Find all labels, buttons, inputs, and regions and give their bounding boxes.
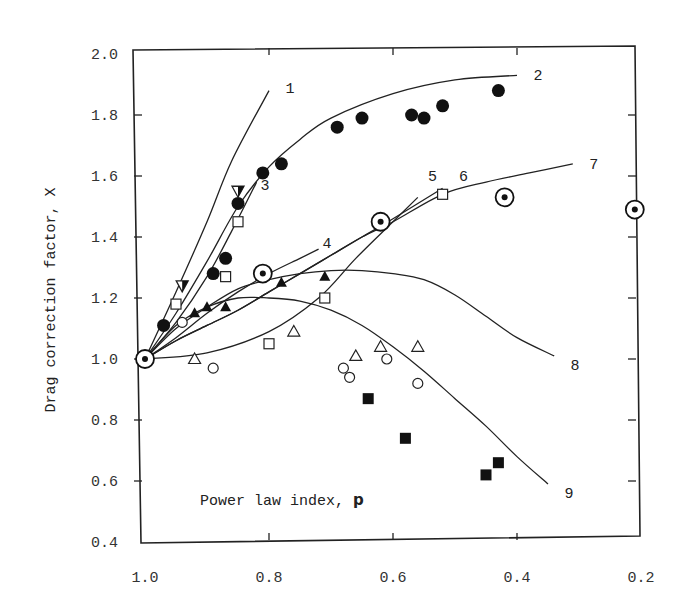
y-tick-label: 1.4 <box>91 230 118 247</box>
y-tick-label: 0.4 <box>91 535 118 552</box>
filled-square-marker <box>481 469 492 480</box>
y-tick-label: 1.2 <box>91 291 118 308</box>
curve-2 <box>145 75 517 359</box>
curve-label-3: 3 <box>261 178 270 195</box>
filled-circle-marker <box>232 197 245 210</box>
open-circle-marker <box>345 372 355 382</box>
open-circle-marker <box>177 317 187 327</box>
x-axis-ticks <box>269 48 517 540</box>
filled-triangle-marker <box>319 271 330 281</box>
open-square-marker <box>320 293 330 303</box>
filled-circle-marker <box>356 112 369 125</box>
curve-label-2: 2 <box>533 68 542 85</box>
open-triangle-marker <box>375 341 387 352</box>
y-axis-title: Drag correction factor, X <box>43 187 60 412</box>
curve-labels: 123456789 <box>261 68 599 503</box>
filled-circle-marker <box>275 157 288 170</box>
curve-8 <box>145 270 554 359</box>
y-axis-tick-labels: 2.01.81.61.41.21.00.80.60.4 <box>91 47 118 552</box>
plot-frame <box>133 46 640 543</box>
model-curves <box>145 75 573 484</box>
open-square-marker <box>233 217 243 227</box>
curve-label-9: 9 <box>564 486 573 503</box>
curve-9 <box>145 297 548 484</box>
x-axis-tick-labels: 1.00.80.60.40.2 <box>131 570 654 587</box>
open-circle-marker <box>338 363 348 373</box>
y-tick-label: 1.0 <box>91 352 118 369</box>
open-triangle-marker <box>350 350 362 361</box>
open-square-marker <box>221 272 231 282</box>
curve-label-1: 1 <box>285 81 294 98</box>
curve-label-7: 7 <box>589 157 598 174</box>
filled-square-marker <box>400 433 411 444</box>
y-tick-label: 0.8 <box>91 413 118 430</box>
filled-square-marker <box>493 457 504 468</box>
curve-1 <box>145 91 269 359</box>
curve-label-5: 5 <box>428 169 437 186</box>
x-axis-title: Power law index, p <box>200 491 364 510</box>
x-axis-title-var: p <box>353 491 364 509</box>
y-tick-label: 2.0 <box>91 47 118 64</box>
curve-label-8: 8 <box>571 358 580 375</box>
x-tick-label: 0.4 <box>503 570 530 587</box>
filled-circle-marker <box>331 121 344 134</box>
x-tick-label: 1.0 <box>131 570 158 587</box>
filled-circle-marker <box>418 112 431 125</box>
filled-circle-marker <box>492 84 505 97</box>
open-square-marker <box>264 339 274 349</box>
x-tick-label: 0.2 <box>627 570 654 587</box>
filled-circle-marker <box>219 252 232 265</box>
filled-square-marker <box>363 393 374 404</box>
y-tick-label: 1.6 <box>91 169 118 186</box>
open-circle-marker <box>413 378 423 388</box>
y-axis-ticks <box>134 115 636 481</box>
open-circle-marker <box>208 363 218 373</box>
open-square-marker <box>438 189 448 199</box>
data-markers <box>136 84 644 480</box>
curve-label-6: 6 <box>459 169 468 186</box>
y-tick-label: 1.8 <box>91 108 118 125</box>
open-triangle-marker <box>288 326 300 337</box>
y-tick-label: 0.6 <box>91 474 118 491</box>
open-square-marker <box>171 299 181 309</box>
x-axis-title-text: Power law index, <box>200 493 353 510</box>
x-tick-label: 0.8 <box>255 570 282 587</box>
curve-label-4: 4 <box>323 236 332 253</box>
filled-circle-marker <box>436 99 449 112</box>
chart: 2.01.81.61.41.21.00.80.60.4 1.00.80.60.4… <box>0 0 684 613</box>
open-triangle-marker <box>412 341 424 352</box>
x-tick-label: 0.6 <box>379 570 406 587</box>
filled-circle-marker <box>157 319 170 332</box>
filled-circle-marker <box>405 109 418 122</box>
open-circle-marker <box>382 354 392 364</box>
filled-circle-marker <box>207 267 220 280</box>
